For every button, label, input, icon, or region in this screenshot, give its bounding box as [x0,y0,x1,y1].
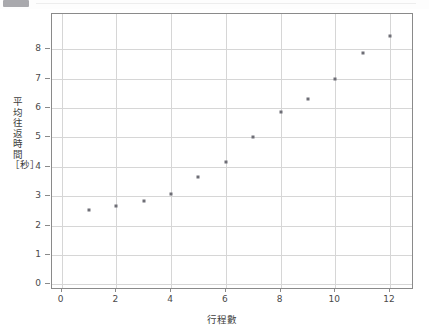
gridline-horizontal [52,226,412,227]
data-point [224,160,227,163]
gridline-horizontal [52,79,412,80]
data-point [306,98,309,101]
x-axis-tick-label: 0 [58,294,64,304]
gridline-vertical [281,14,282,288]
gridline-horizontal [52,137,412,138]
chrome-chip [3,0,29,7]
gridline-horizontal [52,255,412,256]
data-point [115,204,118,207]
gridline-vertical [226,14,227,288]
x-axis-label-text: 行程數 [207,312,237,326]
gridline-vertical [335,14,336,288]
gridline-horizontal [52,167,412,168]
data-point [170,192,173,195]
gridline-vertical [390,14,391,288]
plot-area [51,13,413,289]
x-axis-tick-label: 6 [222,294,228,304]
data-point [87,209,90,212]
data-point [361,52,364,55]
data-point [389,35,392,38]
data-point [142,200,145,203]
data-point [279,111,282,114]
gridline-horizontal [52,49,412,50]
gridline-vertical [62,14,63,288]
gridline-horizontal [52,284,412,285]
data-point [197,176,200,179]
gridline-horizontal [52,108,412,109]
gridline-vertical [116,14,117,288]
x-axis-tick-label: 8 [277,294,283,304]
scatter-chart-figure: 平均往返時間［秒］ 012345678 024681012 行程數 [0,9,429,328]
x-axis-label: 行程數 [0,312,429,326]
gridline-vertical [171,14,172,288]
x-axis-tick-label: 2 [112,294,118,304]
gridline-horizontal [52,196,412,197]
x-axis-tick-label: 4 [167,294,173,304]
data-point [252,136,255,139]
data-point [334,77,337,80]
x-axis-tick-label: 10 [329,294,340,304]
x-axis-tick-label: 12 [383,294,394,304]
chrome-divider [36,3,416,4]
